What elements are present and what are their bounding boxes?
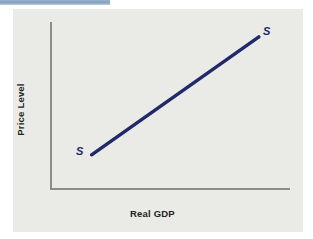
figure-panel (13, 9, 303, 232)
x-axis-line (50, 188, 290, 190)
curve-label-upper-s: S (263, 25, 270, 37)
y-axis-line (50, 22, 52, 190)
decorative-top-rule (0, 0, 110, 5)
curve-label-lower-s: S (76, 145, 83, 157)
y-axis-title: Price Level (15, 70, 26, 150)
x-axis-title: Real GDP (130, 208, 175, 219)
